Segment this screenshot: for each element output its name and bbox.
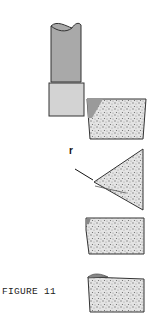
insert-triangle-top-view [94, 149, 143, 210]
insert-worn-2 [88, 274, 144, 312]
tool-shank [51, 23, 81, 82]
tool-holder [49, 83, 84, 116]
insert-side-view [87, 99, 146, 139]
insert-worn-1 [86, 218, 144, 254]
radius-label: r [69, 145, 73, 156]
radius-pointer [75, 169, 93, 180]
figure-caption: FIGURE 11 [2, 286, 56, 297]
figure-drawing [0, 0, 151, 314]
